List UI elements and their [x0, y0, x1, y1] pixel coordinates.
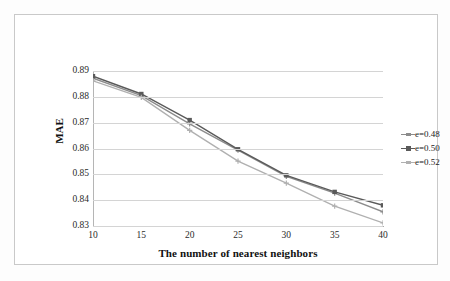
y-tick-label: 0.83 — [55, 221, 89, 231]
y-tick-label: 0.85 — [55, 169, 89, 179]
y-tick-label: 0.89 — [55, 66, 89, 76]
data-point-marker — [332, 204, 337, 209]
gridline — [93, 200, 383, 201]
legend-item[interactable]: e=0.52 — [401, 155, 450, 169]
x-tick-label: 30 — [271, 231, 301, 241]
y-tick-label: 0.87 — [55, 118, 89, 128]
gridline — [93, 226, 383, 227]
x-tick-label: 10 — [78, 231, 108, 241]
x-tick-label: 40 — [368, 231, 398, 241]
legend-label: e=0.50 — [415, 144, 440, 153]
x-tick-label: 15 — [126, 231, 156, 241]
legend-label: e=0.52 — [415, 158, 440, 167]
chart-screenshot: MAE 0.890.880.870.860.850.840.83 1015202… — [0, 0, 450, 281]
data-point-marker — [284, 181, 289, 186]
data-point-marker — [93, 74, 95, 78]
legend-item[interactable]: e=0.48 — [401, 127, 450, 141]
data-point-marker — [380, 220, 383, 225]
legend-item[interactable]: e=0.50 — [401, 141, 450, 155]
plot-area — [93, 71, 383, 226]
y-tick-label: 0.86 — [55, 144, 89, 154]
series-line — [93, 78, 383, 212]
legend-swatch-icon — [401, 143, 415, 153]
x-tick-label: 25 — [223, 231, 253, 241]
data-point-marker — [187, 118, 191, 122]
gridline — [93, 149, 383, 150]
y-tick-label: 0.88 — [55, 92, 89, 102]
x-tick-label: 20 — [175, 231, 205, 241]
y-axis-tick-labels: 0.890.880.870.860.850.840.83 — [53, 71, 89, 226]
data-point-marker — [380, 209, 383, 214]
legend-swatch-icon — [401, 129, 415, 139]
x-tick-label: 35 — [320, 231, 350, 241]
chart-frame: MAE 0.890.880.870.860.850.840.83 1015202… — [14, 14, 438, 265]
legend-label: e=0.48 — [415, 130, 440, 139]
chart-legend: e=0.48e=0.50e=0.52 — [401, 127, 450, 169]
legend-swatch-icon — [401, 157, 415, 167]
data-point-marker — [381, 203, 383, 207]
gridline — [93, 71, 383, 72]
gridline — [93, 174, 383, 175]
data-point-marker — [332, 190, 336, 194]
gridline — [93, 123, 383, 124]
y-tick-label: 0.84 — [55, 195, 89, 205]
x-axis-tick-labels: 10152025303540 — [93, 231, 383, 245]
gridline — [93, 97, 383, 98]
x-axis-title: The number of nearest neighbors — [93, 247, 383, 259]
